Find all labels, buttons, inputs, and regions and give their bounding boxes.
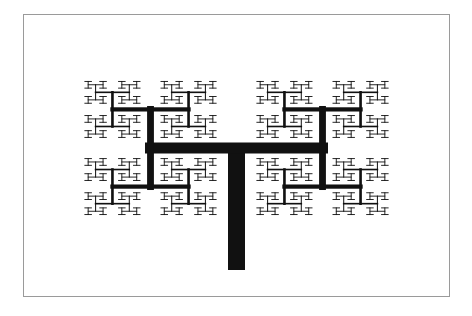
branch-horizontal: [336, 99, 352, 100]
branch-vertical: [336, 158, 337, 166]
branch-vertical: [359, 91, 362, 128]
branch-vertical: [212, 158, 213, 166]
branch-horizontal: [366, 214, 373, 215]
branch-vertical: [164, 158, 165, 166]
branch-vertical: [197, 192, 198, 200]
branch-horizontal: [293, 177, 309, 178]
branch-horizontal: [84, 137, 91, 138]
branch-horizontal: [343, 169, 378, 171]
branch-vertical: [103, 173, 104, 181]
branch-vertical: [179, 192, 180, 200]
branch-horizontal: [381, 207, 388, 208]
branch-vertical: [103, 130, 104, 138]
branch-horizontal: [121, 134, 137, 135]
branch-vertical: [275, 173, 276, 181]
branch-horizontal: [175, 137, 182, 138]
branch-horizontal: [290, 207, 297, 208]
branch-horizontal: [164, 118, 180, 119]
branch-horizontal: [84, 158, 91, 159]
branch-vertical: [351, 130, 352, 138]
branch-vertical: [179, 158, 180, 166]
branch-horizontal: [171, 203, 206, 205]
branch-horizontal: [381, 115, 388, 116]
branch-horizontal: [175, 199, 182, 200]
branch-horizontal: [197, 196, 213, 197]
branch-horizontal: [282, 184, 362, 188]
branch-horizontal: [290, 180, 297, 181]
branch-horizontal: [305, 88, 312, 89]
branch-horizontal: [333, 165, 340, 166]
branch-horizontal: [209, 199, 216, 200]
branch-vertical: [336, 173, 337, 181]
branch-horizontal: [256, 122, 263, 123]
branch-horizontal: [99, 173, 106, 174]
branch-horizontal: [305, 122, 312, 123]
branch-horizontal: [118, 192, 125, 193]
branch-horizontal: [99, 103, 106, 104]
branch-horizontal: [347, 130, 354, 131]
branch-horizontal: [305, 81, 312, 82]
branch-horizontal: [99, 96, 106, 97]
branch-horizontal: [194, 130, 201, 131]
branch-vertical: [179, 130, 180, 138]
branch-horizontal: [290, 137, 297, 138]
branch-horizontal: [347, 192, 354, 193]
branch-horizontal: [84, 199, 91, 200]
branch-horizontal: [343, 92, 378, 94]
branch-vertical: [103, 192, 104, 200]
branch-horizontal: [164, 162, 180, 163]
branch-horizontal: [164, 196, 180, 197]
branch-horizontal: [256, 173, 263, 174]
branch-vertical: [129, 161, 130, 177]
branch-horizontal: [366, 130, 373, 131]
branch-vertical: [369, 207, 370, 215]
branch-vertical: [260, 115, 261, 123]
tree-branches: [84, 81, 388, 270]
branch-vertical: [129, 196, 130, 212]
branch-horizontal: [260, 211, 276, 212]
branch-horizontal: [305, 180, 312, 181]
branch-vertical: [179, 81, 180, 89]
branch-horizontal: [209, 81, 216, 82]
branch-horizontal: [290, 103, 297, 104]
branch-vertical: [95, 84, 96, 100]
branch-horizontal: [260, 177, 276, 178]
branch-horizontal: [121, 99, 137, 100]
branch-horizontal: [99, 115, 106, 116]
branch-vertical: [197, 96, 198, 104]
branch-vertical: [111, 91, 114, 128]
branch-horizontal: [99, 130, 106, 131]
branch-horizontal: [347, 81, 354, 82]
branch-horizontal: [366, 88, 373, 89]
branch-horizontal: [194, 173, 201, 174]
branch-horizontal: [161, 103, 168, 104]
branch-vertical: [351, 173, 352, 181]
branch-horizontal: [209, 173, 216, 174]
branch-vertical: [179, 115, 180, 123]
branch-horizontal: [271, 115, 278, 116]
branch-horizontal: [209, 96, 216, 97]
branch-horizontal: [290, 81, 297, 82]
branch-horizontal: [381, 130, 388, 131]
branch-vertical: [205, 196, 206, 212]
branch-vertical: [212, 115, 213, 123]
branch-vertical: [164, 207, 165, 215]
branch-horizontal: [271, 207, 278, 208]
branch-vertical: [136, 158, 137, 166]
branch-horizontal: [290, 115, 297, 116]
branch-vertical: [384, 96, 385, 104]
branch-horizontal: [197, 211, 213, 212]
branch-horizontal: [161, 115, 168, 116]
branch-horizontal: [164, 99, 180, 100]
branch-horizontal: [118, 103, 125, 104]
branch-horizontal: [95, 203, 130, 205]
branch-horizontal: [305, 199, 312, 200]
branch-horizontal: [84, 214, 91, 215]
branch-horizontal: [305, 103, 312, 104]
branch-vertical: [88, 115, 89, 123]
branch-horizontal: [305, 96, 312, 97]
branch-vertical: [384, 115, 385, 123]
branch-vertical: [212, 96, 213, 104]
branch-horizontal: [161, 88, 168, 89]
branch-horizontal: [293, 84, 309, 85]
